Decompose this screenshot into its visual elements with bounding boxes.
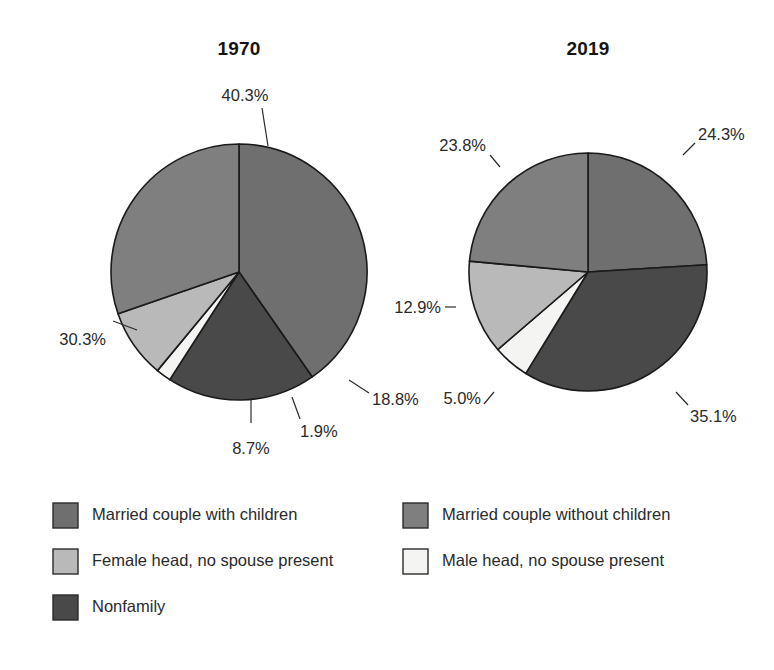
legend-swatch-nonfamily	[53, 595, 78, 620]
label-2019-nonfamily: 35.1%	[690, 407, 737, 425]
two-pie-chart-figure: 1970 40.3% 18.8% 1.9% 8.7% 30.3% 2019	[0, 0, 774, 670]
pie-slices-2019	[469, 153, 707, 391]
label-2019-male-head: 5.0%	[443, 389, 481, 407]
label-2019-female-head: 12.9%	[394, 298, 441, 316]
label-2019-married-with-children: 24.3%	[698, 125, 745, 143]
label-1970-male-head: 1.9%	[300, 422, 338, 440]
label-1970-nonfamily: 18.8%	[372, 390, 419, 408]
label-1970-female-head: 8.7%	[232, 439, 270, 457]
chart-title-1970: 1970	[217, 38, 260, 59]
legend-label-married-with-children: Married couple with children	[92, 505, 297, 523]
legend-swatch-married-with-children	[53, 503, 78, 528]
legend-label-female-head: Female head, no spouse present	[92, 551, 334, 569]
pie-slices-1970	[111, 144, 367, 400]
legend-swatch-female-head	[53, 549, 78, 574]
label-2019-married-without-children: 23.8%	[439, 136, 486, 154]
legend-label-married-without-children: Married couple without children	[442, 505, 670, 523]
legend-swatch-male-head	[403, 549, 428, 574]
legend-swatch-married-without-children	[403, 503, 428, 528]
legend-label-nonfamily: Nonfamily	[92, 597, 166, 615]
chart-title-2019: 2019	[566, 38, 609, 59]
label-1970-married-without-children: 30.3%	[59, 330, 106, 348]
legend-label-male-head: Male head, no spouse present	[442, 551, 664, 569]
label-1970-married-with-children: 40.3%	[222, 86, 269, 104]
